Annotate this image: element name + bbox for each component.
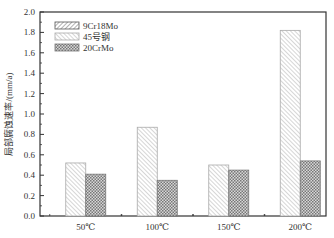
bar-45号钢 [137, 127, 157, 216]
legend-swatch [55, 44, 79, 51]
y-tick-label: 0.4 [24, 170, 36, 180]
y-tick-label: 1.8 [24, 27, 36, 37]
legend-label: 45号钢 [83, 31, 110, 42]
bar-45号钢 [280, 30, 300, 216]
legend-label: 20CrMo [83, 43, 114, 53]
y-tick-label: 1.4 [24, 68, 36, 78]
y-axis-label: 局部腐蚀速率/(mm/a) [3, 73, 14, 156]
y-tick-label: 1.2 [24, 89, 35, 99]
bar-45号钢 [66, 163, 86, 216]
y-tick-label: 0.8 [24, 129, 36, 139]
legend: 9Cr18Mo45号钢20CrMo [55, 21, 119, 53]
y-tick-label: 1.6 [24, 48, 36, 58]
corrosion-rate-bar-chart: 0.00.20.40.60.81.01.21.41.61.82.0 50℃100… [0, 0, 334, 238]
x-tick-label: 200℃ [288, 222, 312, 232]
legend-swatch [55, 33, 79, 40]
y-tick-label: 1.0 [24, 109, 36, 119]
bar-20CrMo [157, 180, 177, 216]
bar-45号钢 [209, 165, 229, 216]
bar-20CrMo [300, 161, 320, 216]
bar-20CrMo [86, 174, 106, 216]
y-tick-label: 2.0 [24, 7, 36, 17]
y-tick-label: 0.2 [24, 191, 35, 201]
y-axis: 0.00.20.40.60.81.01.21.41.61.82.0 [24, 7, 44, 221]
bar-20CrMo [229, 170, 249, 216]
x-tick-label: 150℃ [217, 222, 241, 232]
y-tick-label: 0.0 [24, 211, 36, 221]
legend-swatch [55, 22, 79, 29]
bars [66, 30, 321, 216]
y-tick-label: 0.6 [24, 150, 36, 160]
x-tick-label: 50℃ [76, 222, 95, 232]
x-tick-label: 100℃ [145, 222, 169, 232]
legend-label: 9Cr18Mo [83, 21, 119, 31]
